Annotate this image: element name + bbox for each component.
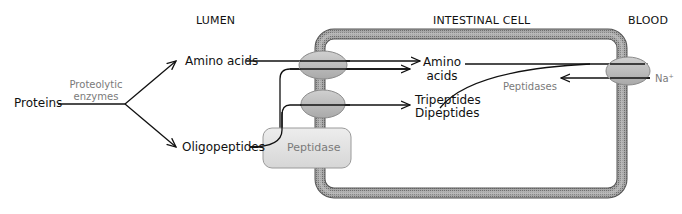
node-dipeptides: Dipeptides <box>415 106 479 120</box>
diagram-canvas <box>0 0 682 214</box>
node-amino-acids-cell-line2: acids <box>422 69 462 83</box>
node-tripeptides: Tripeptides <box>415 93 481 107</box>
proteolytic-line2: enzymes <box>66 91 126 103</box>
basolateral-transporter <box>606 57 650 85</box>
proteolysis-arrows <box>58 61 176 147</box>
node-amino-acids-cell: Amino acids <box>422 55 462 83</box>
region-label-blood: BLOOD <box>628 14 668 28</box>
node-amino-acids-cell-line1: Amino <box>422 55 462 69</box>
proteolytic-enzymes-annotation: Proteolytic enzymes <box>66 79 126 103</box>
peptidases-annotation: Peptidases <box>503 80 557 94</box>
node-amino-acids-lumen: Amino acids <box>185 54 258 68</box>
node-oligopeptides: Oligopeptides <box>182 140 265 154</box>
proteolytic-line1: Proteolytic <box>66 79 126 91</box>
peptidase-label: Peptidase <box>287 141 341 155</box>
region-label-lumen: LUMEN <box>196 14 235 28</box>
amino-acid-transporter <box>299 51 347 79</box>
node-proteins: Proteins <box>14 96 62 110</box>
sodium-ion-label: Na⁺ <box>655 72 674 86</box>
region-label-intestinal-cell: INTESTINAL CELL <box>433 14 530 28</box>
peptide-transporter <box>301 90 345 118</box>
